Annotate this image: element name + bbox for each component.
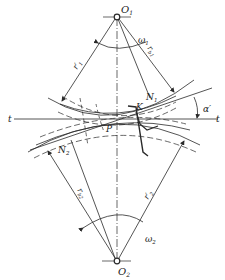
center-o1 — [114, 14, 120, 20]
o1-to-n1-line — [118, 19, 150, 98]
center-o2 — [114, 258, 120, 264]
alpha-prime-arc — [194, 97, 198, 118]
label-alpha-prime: α′ — [203, 104, 211, 114]
gear-mesh-diagram: O1 O2 ω1 ω2 r′1 rb1 rb2 r′2 N1 N2 K P α′… — [0, 0, 225, 280]
label-k: K — [135, 102, 144, 112]
label-p: P — [105, 124, 113, 134]
label-omega1: ω1 — [138, 35, 149, 46]
label-n1: N1 — [145, 92, 157, 103]
gear2-addendum-dashed — [40, 117, 186, 137]
label-o1: O1 — [121, 4, 133, 16]
label-omega2: ω2 — [145, 234, 156, 245]
label-t-left: t — [8, 114, 12, 124]
label-rb2: rb2 — [74, 187, 88, 201]
label-t-right: t — [216, 114, 220, 124]
label-n2: N2 — [57, 145, 70, 156]
gear1-base-circle — [60, 96, 176, 113]
tooth-profile-mid-dashed — [96, 104, 104, 132]
label-r2-prime: r′2 — [142, 189, 155, 202]
r1-prime-line — [62, 19, 115, 101]
rb1-line — [119, 19, 174, 92]
label-o2: O2 — [118, 266, 130, 278]
